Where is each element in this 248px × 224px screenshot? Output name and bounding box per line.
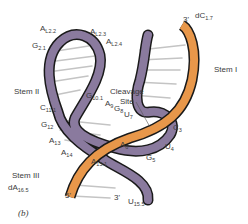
nucleotide-G5: G5	[146, 154, 155, 164]
nucleotide-A14: A14	[61, 149, 72, 159]
nucleotide-G2.1: G2.1	[32, 42, 46, 52]
nucleotide-dA16.5: dA16.5	[8, 184, 29, 194]
nucleotide-AL2.3: AL2.3	[90, 28, 106, 38]
five-prime-end-bottom: 5'	[65, 192, 71, 200]
three-prime-end-bottom: 3'	[114, 194, 120, 202]
nucleotide-C3: C3	[173, 124, 182, 134]
nucleotide-C11.1: C11.1	[40, 104, 56, 114]
stem-2-label: Stem II	[14, 88, 39, 96]
stem-3-label: Stem III	[12, 172, 40, 180]
nucleotide-G10.1: G10.1	[86, 92, 103, 102]
nucleotide-U7: U7	[124, 111, 133, 121]
nucleotide-A9: A9	[105, 100, 113, 110]
nucleotide-A13: A13	[49, 137, 60, 147]
nucleotide-G12: G12	[41, 121, 53, 131]
nucleotide-G8: G8	[114, 105, 123, 115]
stem-1-label: Stem I	[214, 66, 237, 74]
nucleotide-A6: A6	[120, 141, 128, 151]
nucleotide-AL2.4: AL2.4	[106, 38, 122, 48]
three-prime-end-top: 3'	[183, 16, 189, 24]
nucleotide-U4: U4	[165, 143, 174, 153]
panel-label: (b)	[18, 209, 29, 217]
nucleotide-A15.1: A15.1	[91, 158, 107, 168]
nucleotide-dC1.7: dC1.7	[195, 12, 213, 22]
nucleotide-AL2.2: AL2.2	[40, 25, 56, 35]
nucleotide-U15.5: U15.5	[128, 198, 145, 208]
